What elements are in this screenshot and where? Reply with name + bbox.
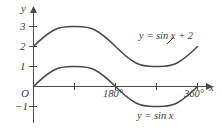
x-tick-label-360: 360° bbox=[184, 89, 204, 100]
x-tick-label-180: 180° bbox=[103, 89, 123, 100]
x-axis-label: x bbox=[209, 82, 214, 93]
origin-label: O bbox=[21, 88, 29, 99]
y-tick-label-3: 3 bbox=[20, 21, 26, 32]
curve-label-sin-x-plus-2: y = sin x + 2 bbox=[139, 31, 193, 42]
y-tick-label-minus-1: −1 bbox=[15, 101, 28, 112]
curve-label-sin-x: y = sin x bbox=[137, 111, 174, 122]
y-axis-arrow-icon bbox=[30, 6, 37, 13]
plot-canvas bbox=[0, 0, 222, 133]
y-axis-label: y bbox=[21, 3, 26, 14]
y-tick-label-1: 1 bbox=[20, 61, 26, 72]
sine-graph-figure: y x 3 2 1 −1 O 180° 360° y = sin x + 2 y… bbox=[0, 0, 222, 133]
y-tick-label-2: 2 bbox=[20, 41, 26, 52]
